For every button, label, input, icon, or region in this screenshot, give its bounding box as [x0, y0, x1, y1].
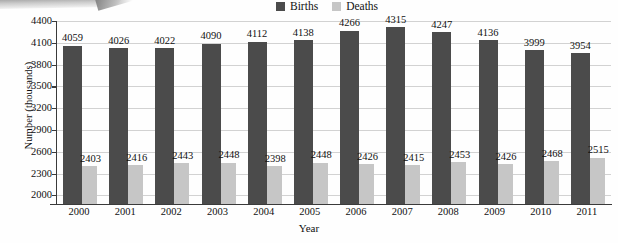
y-axis-tick-mark [52, 195, 57, 196]
gridline [57, 21, 611, 22]
legend-entry-births: Births [276, 1, 318, 13]
x-axis-tick-label: 2002 [151, 207, 191, 218]
y-axis-tick-label: 3500 [16, 81, 52, 92]
bar-value-deaths: 2426 [496, 152, 517, 163]
legend-swatch-births [276, 2, 285, 11]
bar-value-births: 4090 [201, 31, 222, 42]
bar-deaths[interactable] [357, 164, 374, 204]
legend-label-deaths: Deaths [346, 1, 378, 13]
bar-births[interactable] [63, 46, 82, 204]
bar-deaths[interactable] [311, 163, 328, 204]
bar-deaths[interactable] [403, 165, 420, 204]
chart-legend: Births Deaths [276, 1, 378, 13]
y-axis-tick-mark [52, 65, 57, 66]
bar-births[interactable] [525, 50, 544, 204]
bar-births[interactable] [202, 44, 221, 204]
bar-value-births: 4315 [385, 15, 406, 26]
bar-value-deaths: 2443 [172, 151, 193, 162]
bar-deaths[interactable] [588, 158, 605, 204]
x-axis-line [50, 204, 612, 205]
bar-value-births: 4266 [339, 18, 360, 29]
bar-value-births: 3954 [570, 41, 591, 52]
bar-value-births: 4022 [154, 36, 175, 47]
bar-value-deaths: 2415 [403, 153, 424, 164]
bar-births[interactable] [155, 48, 174, 204]
chart-screenshot: Births Deaths Number (thousands) 2000230… [0, 0, 618, 243]
legend-label-births: Births [290, 1, 318, 13]
y-axis-tick-label: 4400 [16, 16, 52, 27]
y-axis-tick-mark [52, 21, 57, 22]
x-axis-tick-label: 2007 [382, 207, 422, 218]
bar-value-deaths: 2398 [265, 154, 286, 165]
y-axis-tick-label: 3200 [16, 103, 52, 114]
bar-births[interactable] [340, 31, 359, 204]
bar-births[interactable] [432, 32, 451, 204]
bar-value-births: 4112 [247, 29, 268, 40]
bar-value-deaths: 2426 [357, 152, 378, 163]
bar-births[interactable] [479, 40, 498, 204]
bar-value-deaths: 2403 [80, 154, 101, 165]
bar-value-births: 4059 [62, 33, 83, 44]
x-axis-tick-label: 2011 [567, 207, 607, 218]
scan-artifact-corner [95, 0, 133, 11]
bar-deaths[interactable] [80, 166, 97, 204]
plot-area: 4059240340262416402224434090244841122398… [56, 21, 610, 204]
bar-value-deaths: 2453 [449, 150, 470, 161]
x-axis-tick-label: 2005 [290, 207, 330, 218]
x-axis-tick-label: 2003 [198, 207, 238, 218]
y-axis-tick-label: 2900 [16, 125, 52, 136]
x-axis-tick-label: 2006 [336, 207, 376, 218]
y-axis-ticks: 200023002600290032003500380041004400 [8, 0, 52, 243]
bar-deaths[interactable] [542, 161, 559, 204]
legend-swatch-deaths [332, 2, 341, 11]
bar-value-deaths: 2468 [542, 149, 563, 160]
bar-value-deaths: 2416 [126, 153, 147, 164]
x-axis-tick-label: 2009 [475, 207, 515, 218]
x-axis-tick-label: 2004 [244, 207, 284, 218]
y-axis-tick-mark [52, 152, 57, 153]
bar-births[interactable] [294, 40, 313, 204]
bar-value-deaths: 2515 [588, 145, 609, 156]
y-axis-tick-label: 2300 [16, 169, 52, 180]
x-axis-tick-label: 2010 [521, 207, 561, 218]
y-axis-tick-mark [52, 130, 57, 131]
bar-births[interactable] [386, 27, 405, 204]
bar-value-births: 4136 [478, 28, 499, 39]
bar-deaths[interactable] [496, 164, 513, 204]
y-axis-tick-mark [52, 108, 57, 109]
bar-value-deaths: 2448 [311, 150, 332, 161]
bar-deaths[interactable] [126, 165, 143, 204]
y-axis-tick-label: 2000 [16, 190, 52, 201]
x-axis-tick-label: 2000 [59, 207, 99, 218]
x-axis-tick-label: 2008 [428, 207, 468, 218]
bar-deaths[interactable] [265, 166, 282, 204]
bar-births[interactable] [109, 48, 128, 204]
bar-value-births: 3999 [524, 38, 545, 49]
bar-deaths[interactable] [172, 163, 189, 204]
bar-deaths[interactable] [219, 163, 236, 204]
x-axis-tick-label: 2001 [105, 207, 145, 218]
bar-value-births: 4138 [293, 28, 314, 39]
y-axis-tick-mark [52, 43, 57, 44]
legend-entry-deaths: Deaths [332, 1, 378, 13]
y-axis-tick-label: 2600 [16, 147, 52, 158]
bar-value-births: 4026 [108, 36, 129, 47]
bar-deaths[interactable] [449, 162, 466, 204]
bar-births[interactable] [248, 42, 267, 204]
y-axis-tick-mark [52, 174, 57, 175]
bar-value-deaths: 2448 [219, 150, 240, 161]
bar-births[interactable] [571, 53, 590, 204]
y-axis-tick-label: 4100 [16, 38, 52, 49]
bar-value-births: 4247 [431, 20, 452, 31]
y-axis-tick-label: 3800 [16, 60, 52, 71]
y-axis-tick-mark [52, 86, 57, 87]
x-axis-title: Year [0, 222, 618, 234]
